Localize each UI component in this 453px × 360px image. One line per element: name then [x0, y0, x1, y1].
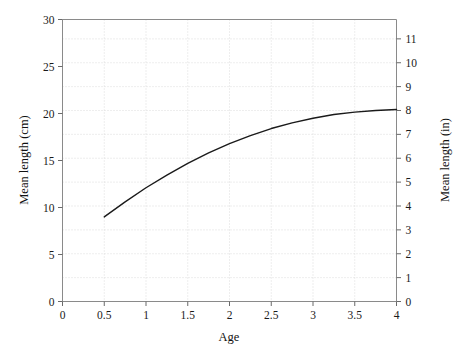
x-tick-label: 1.5 — [181, 309, 196, 321]
y-tick-label-left: 5 — [49, 249, 55, 261]
x-tick-label: 2 — [227, 309, 233, 321]
x-tick-label: 0.5 — [97, 309, 112, 321]
y-tick-label-left: 15 — [43, 155, 55, 167]
y-tick-label-right: 7 — [406, 128, 412, 140]
y-tick-label-right: 5 — [406, 176, 412, 188]
y-tick-label-right: 0 — [406, 296, 412, 308]
y-tick-label-right: 10 — [406, 57, 418, 69]
x-tick-label: 0 — [60, 309, 66, 321]
y-tick-label-right: 4 — [406, 200, 412, 212]
y-tick-label-right: 9 — [406, 81, 412, 93]
y-tick-label-right: 6 — [406, 152, 412, 164]
y-axis-left: 051015202530 — [43, 14, 63, 308]
y-tick-label-right: 2 — [406, 248, 412, 260]
x-axis: 00.511.522.533.54 — [60, 302, 400, 321]
y-tick-label-right: 11 — [406, 33, 417, 45]
x-tick-label: 2.5 — [264, 309, 279, 321]
gridlines — [63, 20, 397, 302]
series-path — [104, 110, 396, 217]
x-tick-label: 1 — [143, 309, 149, 321]
y-tick-label-right: 1 — [406, 272, 412, 284]
y-tick-label-right: 3 — [406, 224, 412, 236]
y-tick-label-left: 10 — [43, 202, 55, 214]
y-tick-label-left: 30 — [43, 14, 55, 26]
x-tick-label: 3 — [310, 309, 316, 321]
y-tick-label-right: 8 — [406, 104, 412, 116]
x-tick-label: 4 — [394, 309, 400, 321]
data-series-line — [104, 110, 396, 217]
x-tick-label: 3.5 — [348, 309, 363, 321]
y-tick-label-left: 20 — [43, 108, 55, 120]
y-tick-label-left: 0 — [49, 296, 55, 308]
y-tick-label-left: 25 — [43, 61, 55, 73]
y-axis-right: 01234567891011 — [397, 33, 418, 308]
